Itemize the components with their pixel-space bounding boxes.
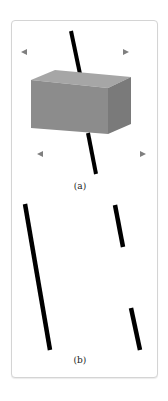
fault-segment-left [25,204,50,350]
fault-segment-right-top [115,205,123,247]
panel-a-label: (a) [65,181,95,191]
fault-line-top [71,31,80,74]
block-front [31,80,108,134]
panel-b-label: (b) [65,355,95,365]
figure-diagram [0,0,168,401]
panel-b-diagram [25,204,140,350]
panel-a-diagram [22,31,145,174]
fault-line-bottom [88,133,96,174]
fault-segment-right-bottom [131,308,140,350]
